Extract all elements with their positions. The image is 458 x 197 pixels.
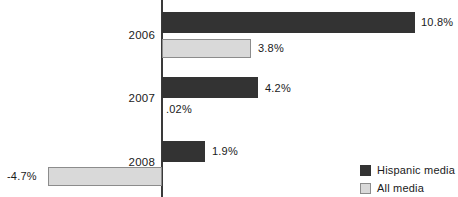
bar-chart: 10.8% 3.8% 2006 4.2% .02% 2007 1.9% -4.7…	[0, 0, 458, 197]
legend-item-all-media: All media	[360, 180, 455, 196]
category-label-2006: 2006	[100, 29, 155, 41]
value-label-2006-hispanic-media: 10.8%	[421, 16, 453, 28]
bar-2007-hispanic-media	[162, 77, 258, 98]
value-label-2008-all-media: -4.7%	[7, 170, 37, 182]
value-label-2007-hispanic-media: 4.2%	[265, 82, 291, 94]
category-label-2008: 2008	[100, 156, 155, 168]
value-label-2006-all-media: 3.8%	[258, 42, 284, 54]
value-label-2007-all-media: .02%	[166, 103, 192, 115]
legend-label-hispanic-media: Hispanic media	[377, 164, 455, 176]
value-label-2008-hispanic-media: 1.9%	[212, 145, 238, 157]
legend-item-hispanic-media: Hispanic media	[360, 162, 455, 178]
legend: Hispanic media All media	[360, 162, 455, 197]
legend-swatch-icon-all-media	[360, 183, 371, 194]
legend-label-all-media: All media	[377, 182, 424, 194]
category-label-2007: 2007	[100, 92, 155, 104]
legend-swatch-icon-hispanic-media	[360, 165, 371, 176]
bar-2008-hispanic-media	[162, 141, 205, 162]
bar-2006-hispanic-media	[162, 12, 415, 33]
bar-2008-all-media	[48, 167, 162, 186]
bar-2006-all-media	[162, 39, 251, 58]
